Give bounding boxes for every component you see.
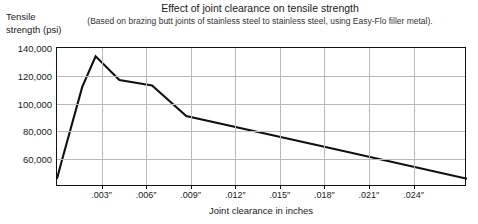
x-axis-tick-label: .006″ <box>136 190 157 200</box>
x-axis-tickmark <box>324 185 325 189</box>
x-axis-tick-label: .009″ <box>180 190 201 200</box>
tensile-strength-line <box>57 48 467 187</box>
y-axis-tick-label: 140,000 <box>18 43 52 54</box>
x-axis-tick-label: .018″ <box>314 190 335 200</box>
y-axis-tick-label: 60,000 <box>23 154 52 165</box>
gridline-vertical <box>324 48 325 185</box>
gridline-horizontal <box>57 159 465 160</box>
chart-subtitle: (Based on brazing butt joints of stainle… <box>80 16 440 27</box>
gridline-horizontal <box>57 76 465 77</box>
x-axis-tickmark <box>414 185 415 189</box>
x-axis-label: Joint clearance in inches <box>56 205 466 216</box>
gridline-vertical <box>235 48 236 185</box>
chart-title: Effect of joint clearance on tensile str… <box>80 2 440 15</box>
gridline-vertical <box>146 48 147 185</box>
x-axis-tick-label: .003″ <box>91 190 112 200</box>
y-axis-tick-label: 80,000 <box>23 126 52 137</box>
x-axis-tickmark <box>280 185 281 189</box>
gridline-vertical <box>280 48 281 185</box>
x-axis-tick-label: .015″ <box>269 190 290 200</box>
y-axis-tick-label: 120,000 <box>18 70 52 81</box>
y-axis-label: Tensile strength (psi) <box>6 10 68 36</box>
x-axis-tickmark <box>146 185 147 189</box>
gridline-horizontal <box>57 104 465 105</box>
x-axis-tickmark <box>369 185 370 189</box>
x-axis-tick-label: .021″ <box>359 190 380 200</box>
gridline-vertical <box>414 48 415 185</box>
x-axis-tickmark <box>235 185 236 189</box>
x-axis-tickmark <box>102 185 103 189</box>
gridline-vertical <box>369 48 370 185</box>
gridline-vertical <box>191 48 192 185</box>
x-axis-tick-label: .012″ <box>225 190 246 200</box>
y-axis-tick-label: 100,000 <box>18 98 52 109</box>
plot-area: 140,000120,000100,00080,00060,000.003″.0… <box>56 47 466 186</box>
x-axis-tick-label: .024″ <box>403 190 424 200</box>
gridline-horizontal <box>57 131 465 132</box>
chart-page: Effect of joint clearance on tensile str… <box>0 0 478 224</box>
gridline-vertical <box>102 48 103 185</box>
x-axis-tickmark <box>191 185 192 189</box>
